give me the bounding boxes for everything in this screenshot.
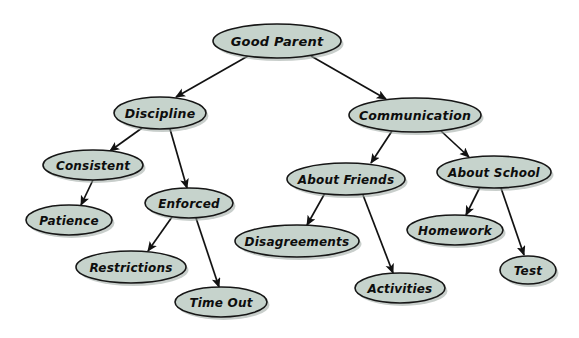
node-consistent[interactable]: Consistent (43, 150, 146, 183)
node-test[interactable]: Test (500, 256, 559, 287)
node-label-discipline: Discipline (125, 106, 196, 121)
edge-enforced-to-time-out (196, 218, 219, 287)
edge-communication-to-about-friends (371, 131, 392, 163)
edge-about-school-to-homework (466, 187, 480, 215)
node-homework[interactable]: Homework (407, 215, 506, 248)
edge-about-friends-to-activities (363, 195, 393, 273)
edge-communication-to-about-school (441, 131, 469, 157)
node-patience[interactable]: Patience (26, 205, 115, 238)
edge-about-friends-to-disagreements (307, 193, 325, 225)
node-label-restrictions: Restrictions (90, 261, 173, 275)
node-label-homework: Homework (418, 224, 493, 238)
node-label-enforced: Enforced (158, 197, 220, 211)
edge-good-parent-to-communication (311, 56, 386, 99)
node-label-consistent: Consistent (56, 159, 131, 173)
edge-about-school-to-test (501, 188, 524, 255)
node-label-time-out: Time Out (189, 296, 253, 310)
node-about-friends[interactable]: About Friends (287, 163, 408, 198)
edge-good-parent-to-discipline (176, 56, 248, 97)
node-restrictions[interactable]: Restrictions (76, 251, 189, 286)
edge-discipline-to-enforced (170, 129, 187, 188)
node-label-about-friends: About Friends (297, 173, 395, 187)
node-about-school[interactable]: About School (437, 156, 554, 191)
concept-map-svg: Good ParentDisciplineCommunicationConsis… (0, 0, 579, 338)
nodes-layer: Good ParentDisciplineCommunicationConsis… (26, 24, 559, 320)
node-label-communication: Communication (359, 108, 471, 123)
node-label-about-school: About School (447, 166, 541, 180)
node-good-parent[interactable]: Good Parent (213, 24, 344, 61)
edge-consistent-to-patience (81, 180, 93, 205)
node-activities[interactable]: Activities (355, 273, 448, 306)
node-label-activities: Activities (367, 282, 433, 296)
node-disagreements[interactable]: Disagreements (235, 225, 362, 260)
node-label-disagreements: Disagreements (245, 235, 350, 249)
node-time-out[interactable]: Time Out (175, 287, 270, 320)
diagram-canvas: Good ParentDisciplineCommunicationConsis… (0, 0, 579, 338)
node-communication[interactable]: Communication (349, 98, 484, 135)
node-label-patience: Patience (39, 214, 99, 228)
node-label-good-parent: Good Parent (231, 34, 324, 49)
edge-enforced-to-restrictions (148, 217, 172, 251)
node-enforced[interactable]: Enforced (145, 188, 236, 221)
node-discipline[interactable]: Discipline (114, 97, 209, 132)
node-label-test: Test (514, 264, 544, 278)
edge-discipline-to-consistent (110, 128, 142, 151)
